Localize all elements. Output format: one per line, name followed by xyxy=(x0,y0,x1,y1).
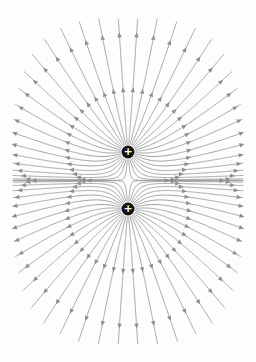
arrow-icon xyxy=(236,195,241,199)
arrow-icon xyxy=(14,162,19,166)
arrow-icon xyxy=(184,162,189,166)
arrow-icon xyxy=(112,89,116,94)
field-line xyxy=(132,158,243,174)
arrow-icon xyxy=(186,216,192,220)
arrow-icon xyxy=(14,195,19,199)
arrow-icon xyxy=(234,169,239,173)
arrow-icon xyxy=(103,264,107,269)
arrow-icon xyxy=(186,141,192,145)
arrow-icon xyxy=(56,299,61,304)
arrow-icon xyxy=(167,316,171,322)
arrow-icon xyxy=(12,225,18,229)
field-line xyxy=(43,214,122,323)
arrow-icon xyxy=(238,153,243,157)
arrow-icon xyxy=(165,254,170,259)
field-line xyxy=(132,215,196,334)
positive-charge-icon xyxy=(122,146,135,159)
arrow-icon xyxy=(181,125,186,130)
arrow-icon xyxy=(103,92,107,97)
field-line xyxy=(136,208,243,242)
arrow-icon xyxy=(167,40,171,46)
arrow-icon xyxy=(165,178,170,182)
arrow-icon xyxy=(69,168,74,172)
arrow-icon xyxy=(239,143,244,147)
arrow-icon xyxy=(121,269,125,274)
arrow-icon xyxy=(17,188,22,192)
arrow-icon xyxy=(86,178,91,182)
field-line xyxy=(135,71,232,149)
arrow-icon xyxy=(151,35,155,40)
arrow-icon xyxy=(179,172,184,176)
arrow-icon xyxy=(230,183,235,187)
arrow-icon xyxy=(85,40,89,46)
field-line xyxy=(23,212,121,290)
arrow-icon xyxy=(56,57,61,62)
arrow-icon xyxy=(69,189,74,193)
arrow-icon xyxy=(232,250,238,254)
arrow-icon xyxy=(87,254,92,259)
arrow-icon xyxy=(239,132,245,136)
arrow-icon xyxy=(12,143,17,147)
positive-charge-icon xyxy=(122,203,135,216)
arrow-icon xyxy=(184,194,189,198)
arrow-icon xyxy=(72,172,77,176)
arrow-icon xyxy=(121,87,125,92)
arrow-icon xyxy=(239,214,244,218)
field-line xyxy=(132,187,243,203)
arrow-icon xyxy=(196,299,201,304)
arrow-icon xyxy=(18,250,24,254)
field-line xyxy=(45,39,123,146)
arrow-icon xyxy=(25,93,30,98)
arrow-icon xyxy=(238,203,243,207)
arrow-icon xyxy=(69,232,74,237)
arrow-icon xyxy=(117,32,121,37)
arrow-icon xyxy=(151,321,155,326)
field-lines xyxy=(12,19,243,345)
field-line xyxy=(60,215,124,334)
arrow-icon xyxy=(165,102,170,107)
field-line xyxy=(14,119,121,153)
arrow-icon xyxy=(101,35,105,40)
arrow-icon xyxy=(131,87,135,92)
arrow-icon xyxy=(182,189,187,193)
arrow-icon xyxy=(12,203,17,207)
arrow-icon xyxy=(234,188,239,192)
arrow-icon xyxy=(65,201,70,205)
arrow-icon xyxy=(25,263,30,268)
arrow-icon xyxy=(18,106,24,110)
arrow-icon xyxy=(112,267,116,272)
field-line xyxy=(132,28,195,146)
arrow-icon xyxy=(117,324,121,329)
arrow-icon xyxy=(67,194,72,198)
arrow-icon xyxy=(87,102,92,107)
arrow-icon xyxy=(226,93,231,98)
arrow-icon xyxy=(230,174,235,178)
arrow-icon xyxy=(65,156,70,160)
field-line xyxy=(13,187,124,203)
arrow-icon xyxy=(179,185,184,189)
arrow-icon xyxy=(65,216,71,220)
arrow-icon xyxy=(12,214,17,218)
field-line-diagram: + + xyxy=(0,0,256,362)
arrow-icon xyxy=(21,183,26,187)
field-line xyxy=(133,39,211,146)
field-lines-canvas xyxy=(0,0,256,362)
arrow-icon xyxy=(196,57,201,62)
arrow-icon xyxy=(101,321,105,326)
arrow-icon xyxy=(226,263,231,268)
field-line xyxy=(13,158,124,174)
field-line xyxy=(24,71,121,149)
arrow-icon xyxy=(140,89,144,94)
field-line xyxy=(136,119,243,153)
arrow-icon xyxy=(134,324,138,329)
arrow-icon xyxy=(72,185,77,189)
field-line xyxy=(133,214,212,323)
arrow-icon xyxy=(131,269,135,274)
arrow-icon xyxy=(85,316,89,322)
arrow-icon xyxy=(239,225,245,229)
arrow-icon xyxy=(69,125,74,130)
arrow-icon xyxy=(12,132,18,136)
arrow-icon xyxy=(181,232,186,237)
arrow-icon xyxy=(12,153,17,157)
field-line xyxy=(135,212,233,290)
